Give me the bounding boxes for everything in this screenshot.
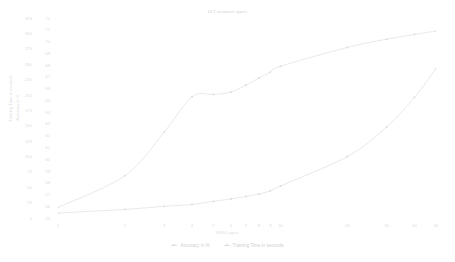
y-axis-right-tick-label: 59 [38, 169, 50, 174]
data-point [414, 34, 416, 36]
data-point [435, 30, 436, 32]
y-axis-left-tick-label: 0 [18, 216, 32, 221]
y-axis-right-tick-label: 63 [38, 121, 50, 126]
y-axis-left-tick-label: 75 [18, 169, 32, 174]
chart-legend: Accuracy in % Training Time in seconds [0, 243, 455, 248]
y-axis-left-tick-label: 325 [18, 16, 32, 21]
data-point [163, 131, 165, 133]
x-axis-tick-label: 5 [212, 223, 214, 228]
x-axis-title: DNN Layers [0, 230, 455, 235]
series-line [58, 31, 436, 207]
y-axis-right-tick-label: 64 [38, 110, 50, 115]
x-axis-tick-label: 7 [245, 223, 247, 228]
x-axis-tick-label: 6 [230, 223, 232, 228]
data-point [258, 77, 260, 79]
plot-svg [58, 18, 436, 218]
plot-area [58, 18, 436, 218]
y-axis-left-title: Training Time in seconds [8, 63, 13, 135]
data-point [124, 175, 126, 177]
x-axis-tick-label: 3 [163, 223, 165, 228]
y-axis-right-tick-label: 70 [38, 39, 50, 44]
chart-title: DLT malware types [0, 9, 455, 14]
y-axis-right-tick-label: 68 [38, 63, 50, 68]
legend-marker-training-time-icon [224, 245, 230, 246]
data-point [213, 200, 215, 202]
series-accuracy [58, 30, 436, 208]
y-axis-left-tick-label: 275 [18, 46, 32, 51]
series-line [58, 68, 436, 213]
x-axis-tick-label: 20 [345, 223, 350, 228]
data-point [124, 208, 126, 210]
y-axis-left-tick-label: 200 [18, 93, 32, 98]
x-axis-tick-label: 8 [258, 223, 260, 228]
data-point [258, 193, 260, 195]
y-axis-left-tick-label: 250 [18, 62, 32, 67]
legend-item-accuracy[interactable]: Accuracy in % [171, 243, 209, 248]
data-point [280, 65, 282, 67]
data-point [347, 47, 349, 49]
x-axis-tick-label: 30 [384, 223, 389, 228]
y-axis-right-tick-label: 60 [38, 157, 50, 162]
x-axis-tick-label: 4 [191, 223, 193, 228]
data-point [191, 96, 193, 98]
data-point [230, 91, 232, 93]
data-point [163, 205, 165, 207]
data-point [386, 38, 388, 40]
x-axis-tick-label: 9 [269, 223, 271, 228]
y-axis-left-tick-label: 175 [18, 108, 32, 113]
data-point [191, 204, 193, 206]
chart-container: DLT malware types Training Time in secon… [0, 0, 455, 262]
y-axis-right-tick-label: 57 [38, 192, 50, 197]
x-axis-tick-label: 10 [278, 223, 283, 228]
data-point [386, 126, 388, 128]
y-axis-right-tick-label: 58 [38, 180, 50, 185]
y-axis-right-tick-label: 69 [38, 51, 50, 56]
data-point [58, 212, 59, 214]
y-axis-right-tick-label: 65 [38, 98, 50, 103]
y-axis-right-tick-label: 62 [38, 133, 50, 138]
data-point [414, 96, 416, 98]
y-axis-left-tick-label: 150 [18, 123, 32, 128]
y-axis-left-tick-label: 100 [18, 154, 32, 159]
x-axis-tick-label: 40 [412, 223, 417, 228]
data-point [269, 71, 271, 73]
series-training-time [58, 68, 436, 214]
y-axis-right-tick-label: 61 [38, 145, 50, 150]
data-point [245, 196, 247, 198]
data-point [245, 84, 247, 86]
data-point [213, 94, 215, 96]
x-axis-tick-label: 50 [434, 223, 439, 228]
y-axis-right-tick-label: 56 [38, 204, 50, 209]
legend-label-accuracy: Accuracy in % [180, 243, 209, 248]
y-axis-left-tick-label: 225 [18, 77, 32, 82]
x-axis-tick-label: 1 [57, 223, 59, 228]
data-point [269, 190, 271, 192]
legend-item-training-time[interactable]: Training Time in seconds [224, 243, 284, 248]
legend-marker-accuracy-icon [171, 245, 177, 246]
y-axis-right-tick-label: 72 [38, 16, 50, 21]
y-axis-right-tick-label: 55 [38, 216, 50, 221]
y-axis-left-tick-label: 50 [18, 185, 32, 190]
y-axis-right-tick-label: 67 [38, 74, 50, 79]
data-point [347, 156, 349, 158]
y-axis-left-tick-label: 25 [18, 200, 32, 205]
data-point [230, 198, 232, 200]
y-axis-right-tick-label: 66 [38, 86, 50, 91]
y-axis-right-tick-label: 71 [38, 27, 50, 32]
data-point [280, 185, 282, 187]
legend-label-training-time: Training Time in seconds [233, 243, 284, 248]
x-axis-tick-label: 2 [124, 223, 126, 228]
y-axis-left-tick-label: 125 [18, 139, 32, 144]
y-axis-left-tick-label: 300 [18, 31, 32, 36]
